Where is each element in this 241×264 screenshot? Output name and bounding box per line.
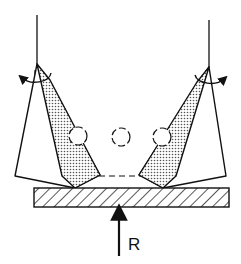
- force-label: R: [128, 235, 140, 254]
- right-pin-circle: [153, 128, 171, 146]
- left-pin-circle: [69, 127, 87, 145]
- linkage-diagram: R: [0, 0, 241, 264]
- center-pin-circle: [112, 128, 130, 146]
- pin-circles: [69, 127, 171, 146]
- left-wedge: [15, 64, 100, 188]
- hatched-base-bar: [34, 188, 229, 207]
- right-wedge: [139, 67, 226, 188]
